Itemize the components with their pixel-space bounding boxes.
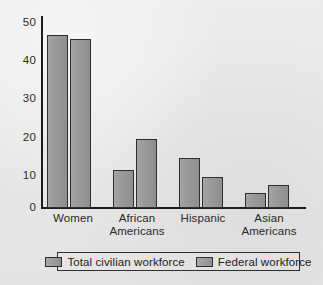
bar-group-asian-americans — [245, 16, 289, 208]
category-label-line: Asian — [223, 212, 315, 225]
legend-swatch-icon — [45, 257, 62, 267]
x-axis-category-labels: Women African Americans Hispanic Asian A… — [43, 212, 306, 254]
legend-item-federal-workforce: Federal workforce — [196, 256, 312, 268]
y-axis-tick-labels: 50 40 30 20 10 0 — [8, 0, 36, 285]
bar-group-hispanic — [179, 16, 223, 208]
category-label-asian-americans: Asian Americans — [223, 212, 315, 238]
y-tick-label: 40 — [10, 55, 36, 66]
legend-label: Total civilian workforce — [67, 256, 184, 268]
legend-swatch-icon — [196, 257, 213, 267]
bar-african-americans-federal-workforce — [136, 139, 157, 208]
bar-hispanic-total-civilian-workforce — [179, 158, 200, 208]
category-label-line: Americans — [223, 225, 315, 238]
bar-african-americans-total-civilian-workforce — [113, 170, 134, 208]
chart-legend: Total civilian workforce Federal workfor… — [57, 252, 300, 271]
y-tick-label: 50 — [10, 17, 36, 28]
category-label-line: Americans — [91, 225, 183, 238]
legend-item-total-civilian-workforce: Total civilian workforce — [45, 256, 184, 268]
bar-asian-americans-total-civilian-workforce — [245, 193, 266, 208]
bar-group-women — [47, 16, 91, 208]
bar-chart: 50 40 30 20 10 0 Women African Americ — [0, 0, 323, 285]
bar-asian-americans-federal-workforce — [268, 185, 289, 208]
y-tick-label: 10 — [10, 170, 36, 181]
bar-women-total-civilian-workforce — [47, 35, 68, 208]
bar-plot-area — [43, 16, 306, 208]
bar-group-african-americans — [113, 16, 157, 208]
legend-label: Federal workforce — [218, 256, 312, 268]
bar-women-federal-workforce — [70, 39, 91, 208]
bar-hispanic-federal-workforce — [202, 177, 223, 208]
y-tick-label: 20 — [10, 132, 36, 143]
y-tick-label: 30 — [10, 93, 36, 104]
